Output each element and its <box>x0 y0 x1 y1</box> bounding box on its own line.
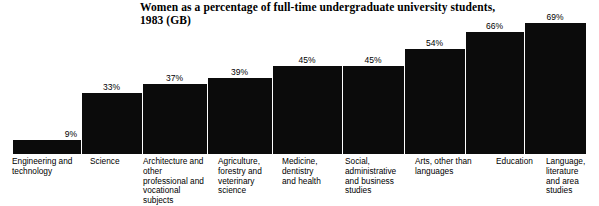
plot-area: 9% 33% 37% 39% 45% 45% 54% 66% <box>0 20 599 154</box>
bar-value-label: 69% <box>524 12 586 22</box>
bar-value-label: 66% <box>465 21 524 31</box>
bar-value-label: 45% <box>272 55 342 65</box>
bar-group: 39% <box>207 20 272 154</box>
category-label: Architecture and other professional and … <box>143 157 209 206</box>
bar-group: 9% <box>13 20 81 154</box>
bar-group: 37% <box>142 20 207 154</box>
bar-value-label: 33% <box>81 82 142 92</box>
bar-value-label: 45% <box>342 55 404 65</box>
bar[interactable] <box>404 49 465 154</box>
bar[interactable] <box>272 66 342 154</box>
bar[interactable] <box>13 140 81 154</box>
bar-value-label: 37% <box>142 73 207 83</box>
bar[interactable] <box>81 93 142 154</box>
bar-value-label: 54% <box>404 38 465 48</box>
bar-group: 69% <box>524 20 586 154</box>
bar-group: 45% <box>272 20 342 154</box>
bar[interactable] <box>465 32 524 154</box>
bar[interactable] <box>342 66 404 154</box>
category-axis: Engineering and technology Science Archi… <box>0 157 599 206</box>
bar-value-label: 9% <box>13 129 81 139</box>
category-label: Engineering and technology <box>12 157 82 177</box>
bar-group: 66% <box>465 20 524 154</box>
bar[interactable] <box>207 78 272 154</box>
bar-chart-figure: Women as a percentage of full-time under… <box>0 0 599 206</box>
bar-group: 33% <box>81 20 142 154</box>
bar-group: 54% <box>404 20 465 154</box>
bar-value-label: 39% <box>207 67 272 77</box>
category-label: Arts, other than languages <box>415 157 485 177</box>
bar-group: 45% <box>342 20 404 154</box>
bar[interactable] <box>524 23 586 154</box>
category-label: Social, administrative and business stud… <box>345 157 407 196</box>
category-label: Medicine, dentistry and health <box>282 157 340 186</box>
bar[interactable] <box>142 84 207 154</box>
category-label: Agriculture, forestry and veterinary sci… <box>218 157 276 196</box>
category-label: Science <box>90 157 142 167</box>
category-label: Language, literature and area studies <box>546 157 599 196</box>
